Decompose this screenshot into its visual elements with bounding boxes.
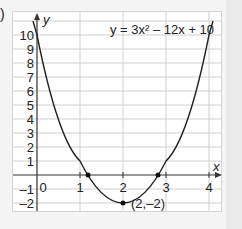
chart-svg: y x 10 9 8 7 6 5 4 3 2 1 –1 –2 0 1 2 3 4… (0, 0, 242, 229)
root-point-left (86, 173, 91, 178)
svg-text:9: 9 (27, 42, 34, 57)
svg-text:2: 2 (119, 180, 126, 195)
svg-text:4: 4 (205, 180, 212, 195)
svg-text:10: 10 (20, 28, 34, 43)
svg-text:8: 8 (27, 56, 34, 71)
svg-text:3: 3 (162, 180, 169, 195)
x-axis (13, 172, 222, 178)
x-axis-label: x (212, 159, 220, 174)
svg-text:7: 7 (27, 70, 34, 85)
svg-text:5: 5 (27, 98, 34, 113)
equation-label: y = 3x² – 12x + 10 (110, 22, 214, 37)
svg-text:4: 4 (27, 112, 34, 127)
svg-text:2: 2 (27, 140, 34, 155)
y-axis-label: y (42, 12, 51, 27)
svg-text:1: 1 (76, 180, 83, 195)
svg-text:–1: –1 (20, 182, 34, 197)
svg-text:3: 3 (27, 126, 34, 141)
svg-text:6: 6 (27, 84, 34, 99)
svg-text:1: 1 (27, 154, 34, 169)
root-point-right (156, 173, 161, 178)
x-tick-labels: 0 1 2 3 4 (39, 180, 212, 195)
vertex-point (121, 201, 126, 206)
vertex-label: (2,–2) (131, 196, 165, 211)
svg-text:0: 0 (39, 180, 46, 195)
svg-text:–2: –2 (20, 196, 34, 211)
